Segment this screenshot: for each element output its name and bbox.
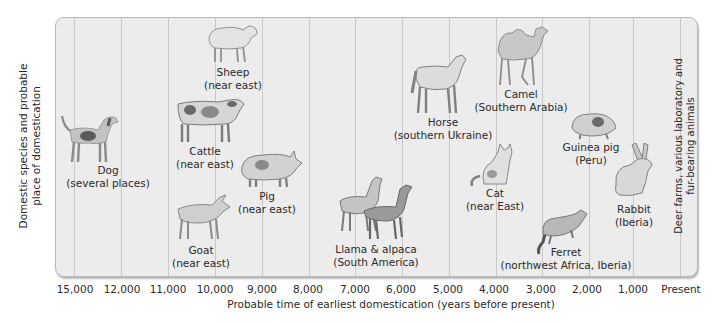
llama-alpaca-label: Llama & alpaca (South America) <box>333 243 418 269</box>
llama-alpaca-illustration <box>336 175 418 241</box>
camel-label: Camel (Southern Arabia) <box>474 88 567 114</box>
gridline-8000 <box>309 18 310 276</box>
llama-alpaca-name: Llama & alpaca <box>333 243 418 256</box>
y-axis-label-line1: Domestic species and probable <box>17 31 30 261</box>
side-note-deer-farms: Deer farms, various laboratory and fur-b… <box>673 41 697 251</box>
x-tick-4000: 4,000 <box>479 283 509 295</box>
llama-alpaca-place: (South America) <box>333 256 418 269</box>
sheep-label: Sheep (near east) <box>204 66 262 92</box>
guinea-pig-illustration <box>568 110 618 140</box>
ferret-label: Ferret (northwest Africa, Iberia) <box>501 246 632 272</box>
goat-place: (near east) <box>172 257 230 270</box>
side-note-line1: Deer farms, various laboratory and <box>673 41 685 251</box>
x-tick-12000: 12,000 <box>104 283 141 295</box>
sheep-illustration <box>205 22 259 66</box>
cattle-place: (near east) <box>176 158 234 171</box>
cat-place: (near East) <box>466 200 524 213</box>
camel-illustration <box>492 25 550 87</box>
guinea-pig-name: Guinea pig <box>563 141 620 154</box>
x-axis-label: Probable time of earliest domestication … <box>0 298 727 310</box>
pig-label: Pig (near east) <box>238 190 296 216</box>
x-tick-5000: 5,000 <box>433 283 463 295</box>
sheep-place: (near east) <box>204 79 262 92</box>
x-tick-15000: 15,000 <box>57 283 94 295</box>
guinea-pig-label: Guinea pig (Peru) <box>563 141 620 167</box>
pig-illustration <box>236 149 304 189</box>
gridline-9000 <box>262 18 263 276</box>
goat-illustration <box>174 193 234 243</box>
cattle-label: Cattle (near east) <box>176 145 234 171</box>
x-tick-7000: 7,000 <box>340 283 370 295</box>
dog-label: Dog (several places) <box>66 164 150 190</box>
cattle-illustration <box>174 96 248 144</box>
guinea-pig-place: (Peru) <box>563 154 620 167</box>
horse-label: Horse (southern Ukraine) <box>394 116 493 142</box>
x-tick-6000: 6,000 <box>386 283 416 295</box>
cat-label: Cat (near East) <box>466 187 524 213</box>
pig-name: Pig <box>238 190 296 203</box>
camel-name: Camel <box>474 88 567 101</box>
horse-name: Horse <box>394 116 493 129</box>
horse-illustration <box>410 53 470 117</box>
rabbit-label: Rabbit (Iberia) <box>615 203 653 229</box>
gridline-11000 <box>168 18 169 276</box>
dog-name: Dog <box>66 164 150 177</box>
cattle-name: Cattle <box>176 145 234 158</box>
x-tick-11000: 11,000 <box>150 283 187 295</box>
ferret-place: (northwest Africa, Iberia) <box>501 259 632 272</box>
x-tick-present: Present <box>661 283 700 295</box>
y-axis-label: Domestic species and probable place of d… <box>17 31 43 261</box>
y-axis-label-line2: place of domestication <box>30 31 43 261</box>
rabbit-illustration <box>612 143 656 199</box>
rabbit-name: Rabbit <box>615 203 653 216</box>
rabbit-place: (Iberia) <box>615 216 653 229</box>
dog-place: (several places) <box>66 177 150 190</box>
x-tick-8000: 8,000 <box>293 283 323 295</box>
x-tick-2000: 2,000 <box>572 283 602 295</box>
cat-name: Cat <box>466 187 524 200</box>
cat-illustration <box>470 140 520 188</box>
sheep-name: Sheep <box>204 66 262 79</box>
pig-place: (near east) <box>238 203 296 216</box>
x-tick-10000: 10,000 <box>197 283 234 295</box>
side-note-line2: fur-bearing animals <box>685 41 697 251</box>
ferret-name: Ferret <box>501 246 632 259</box>
goat-label: Goat (near east) <box>172 244 230 270</box>
x-tick-3000: 3,000 <box>526 283 556 295</box>
x-tick-1000: 1,000 <box>618 283 648 295</box>
dog-illustration <box>58 112 122 166</box>
camel-place: (Southern Arabia) <box>474 101 567 114</box>
goat-name: Goat <box>172 244 230 257</box>
x-tick-9000: 9,000 <box>247 283 277 295</box>
